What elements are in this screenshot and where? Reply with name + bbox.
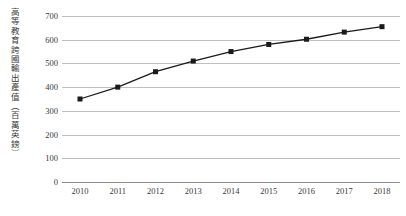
series-line [62,16,400,182]
data-point-marker [191,59,196,64]
y-axis-tick-label: 700 [28,11,58,21]
x-axis-tick-label: 2014 [223,186,240,196]
y-axis-tick-label: 300 [28,106,58,116]
x-axis-tick-label: 2017 [336,186,353,196]
x-axis-tick-label: 2013 [185,186,202,196]
y-axis-tick-label: 500 [28,58,58,68]
x-axis-tick-labels: 201020112012201320142015201620172018 [62,186,400,206]
y-axis-title: 高等教育跨國輸出產值（百萬英鎊） [0,8,18,198]
x-axis-tick-label: 2015 [260,186,277,196]
y-axis-tick-label: 600 [28,35,58,45]
data-point-marker [380,24,385,29]
data-point-marker [304,37,309,42]
x-axis-tick-label: 2010 [72,186,89,196]
x-axis-tick-label: 2012 [147,186,164,196]
x-axis-tick-label: 2018 [374,186,391,196]
data-point-marker [342,30,347,35]
data-point-marker [266,42,271,47]
data-point-marker [78,97,83,102]
y-axis-tick-label: 100 [28,153,58,163]
line-chart: 高等教育跨國輸出產值（百萬英鎊） 0100200300400500600700 … [0,0,406,216]
y-axis-tick-labels: 0100200300400500600700 [24,16,58,182]
x-axis-tick-label: 2011 [109,186,126,196]
plot-area [62,16,400,182]
y-axis-tick-label: 400 [28,82,58,92]
gridline [62,182,400,183]
data-line [80,27,382,99]
data-point-marker [115,85,120,90]
data-point-marker [153,69,158,74]
y-axis-tick-label: 200 [28,130,58,140]
data-point-marker [229,49,234,54]
x-axis-tick-label: 2016 [298,186,315,196]
y-axis-tick-label: 0 [28,177,58,187]
